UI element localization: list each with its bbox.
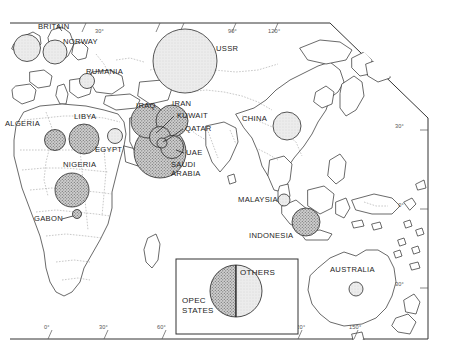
circle-qatar <box>157 138 167 148</box>
circle-britain <box>14 35 41 62</box>
legend-panel: OTHERS OPEC STATES <box>176 259 298 334</box>
grad-bottom-0: 0° <box>44 324 50 330</box>
world-oil-map: 30° 90° 120° 0° 30° 60° 120° 150° 30° 0°… <box>0 0 452 361</box>
label-britain: BRITAIN <box>38 22 70 31</box>
circle-malaysia <box>278 194 290 206</box>
label-ussr: USSR <box>216 44 239 53</box>
circle-ussr <box>153 29 217 93</box>
label-qatar: QATAR <box>185 124 212 133</box>
grad-top-30: 30° <box>95 28 104 34</box>
grad-top-120: 120° <box>268 28 280 34</box>
label-algeria: ALGERIA <box>5 119 41 128</box>
label-australia: AUSTRALIA <box>330 265 376 274</box>
circle-algeria <box>45 130 66 151</box>
legend-opec-label-2: STATES <box>182 306 214 315</box>
circle-nigeria <box>55 173 89 207</box>
grad-bottom-150: 150° <box>349 324 361 330</box>
grad-right-0: 0° <box>398 202 404 208</box>
circle-indonesia <box>292 208 320 236</box>
label-norway: NORWAY <box>63 37 98 46</box>
label-rumania: RUMANIA <box>86 67 124 76</box>
label-egypt: EGYPT <box>95 145 122 154</box>
grad-right-30n: 30° <box>395 123 404 129</box>
circle-china <box>273 112 301 140</box>
label-uae: UAE <box>186 148 203 157</box>
grad-bottom-30: 30° <box>99 324 108 330</box>
label-indonesia: INDONESIA <box>249 231 294 240</box>
grad-bottom-60: 60° <box>157 324 166 330</box>
label-iran: IRAN <box>172 99 191 108</box>
label-gabon: GABON <box>34 214 63 223</box>
label-saudi-line2: ARABIA <box>171 169 201 178</box>
label-saudi-line1: SAUDI <box>171 160 196 169</box>
circle-australia <box>349 282 363 296</box>
label-china: CHINA <box>242 114 268 123</box>
grad-top-90: 90° <box>228 28 237 34</box>
legend-opec-label-1: OPEC <box>182 296 206 305</box>
label-iraq: IRAQ <box>136 101 156 110</box>
legend-others-label: OTHERS <box>240 268 275 277</box>
grad-right-30s: 30° <box>395 281 404 287</box>
label-kuwait: KUWAIT <box>177 111 208 120</box>
circle-gabon <box>73 210 82 219</box>
label-libya: LIBYA <box>74 112 97 121</box>
circle-egypt <box>108 129 123 144</box>
label-malaysia: MALAYSIA <box>238 195 278 204</box>
label-nigeria: NIGERIA <box>63 160 97 169</box>
